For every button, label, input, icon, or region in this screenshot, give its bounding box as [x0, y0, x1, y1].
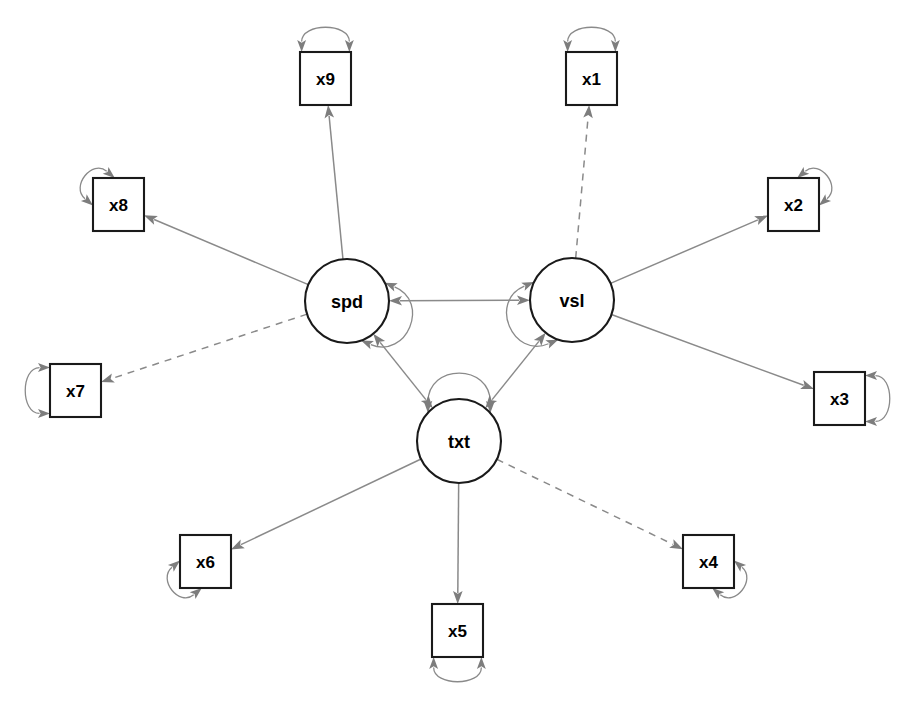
covariance-layer [373, 295, 545, 408]
covariance-edge-vsl-txt [492, 341, 539, 399]
loading-edge-txt-x4 [497, 459, 673, 544]
residual-loop-x7 [25, 368, 39, 414]
manifest-label-x7: x7 [66, 382, 85, 401]
latent-node-txt[interactable]: txt [417, 399, 501, 483]
manifest-node-x6[interactable]: x6 [180, 535, 231, 588]
arrowhead-vsl-x1 [583, 105, 593, 118]
residual-loop-x5-head-a [477, 657, 486, 669]
residual-loop-x1-head-a [563, 40, 572, 52]
loading-edge-vsl-x3 [611, 315, 803, 386]
residual-loop-x3-head-b [865, 417, 877, 426]
residual-loop-x7-head-b [38, 363, 50, 372]
manifest-node-x9[interactable]: x9 [300, 52, 351, 105]
residual-loop-x5-head-b [429, 657, 438, 669]
sem-path-diagram: x1x2x3x4x5x6x7x8x9spdvsltxt [0, 0, 913, 705]
arrowhead-txt-x4 [669, 539, 683, 549]
latent-label-vsl: vsl [559, 291, 584, 311]
residual-loop-x3-head-a [865, 371, 877, 380]
residual-loop-x1 [568, 27, 616, 41]
residual-loop-x4-head-b [712, 588, 724, 599]
loading-edge-spd-x7 [111, 314, 307, 379]
residual-loop-x9-head-b [345, 40, 354, 52]
covariance-edge-spd-vsl [400, 300, 519, 301]
manifest-label-x5: x5 [448, 622, 467, 641]
residual-loop-x9 [302, 27, 350, 41]
residual-loop-x8-head-b [103, 167, 115, 178]
arrowhead-spd-x7 [101, 373, 115, 382]
latent-label-txt: txt [448, 432, 470, 452]
latent-label-spd: spd [331, 292, 363, 312]
manifest-node-x4[interactable]: x4 [683, 535, 734, 588]
residual-loop-x5 [434, 668, 482, 682]
manifest-label-x2: x2 [784, 196, 803, 215]
loading-edge-txt-x5 [458, 483, 459, 593]
latent-node-vsl[interactable]: vsl [530, 258, 614, 342]
manifest-label-x9: x9 [316, 70, 335, 89]
residual-loop-x7-head-a [38, 409, 50, 418]
loading-edge-spd-x8 [154, 220, 308, 285]
manifest-node-x3[interactable]: x3 [814, 372, 865, 425]
manifest-label-x8: x8 [109, 196, 128, 215]
manifest-node-x8[interactable]: x8 [93, 178, 144, 231]
residual-loop-x6-head-a [190, 588, 202, 599]
residual-loop-x1-head-b [611, 40, 620, 52]
manifest-node-x5[interactable]: x5 [432, 604, 483, 657]
manifest-node-x1[interactable]: x1 [566, 52, 617, 105]
manifest-label-x3: x3 [830, 390, 849, 409]
edge-layer [101, 105, 814, 604]
latent-node-spd[interactable]: spd [305, 259, 389, 343]
arrowhead-cov-vsl-txt-a [534, 333, 546, 346]
manifest-label-x4: x4 [699, 553, 718, 572]
arrowhead-cov-spd-txt-a [373, 334, 385, 347]
loading-edge-vsl-x2 [611, 220, 758, 284]
manifest-label-x6: x6 [196, 553, 215, 572]
manifest-node-x7[interactable]: x7 [50, 364, 101, 417]
manifest-node-x2[interactable]: x2 [768, 178, 819, 231]
residual-loop-x3 [876, 376, 890, 422]
loading-edge-txt-x6 [241, 459, 421, 545]
residual-loop-x2-head-a [797, 167, 809, 178]
manifest-label-x1: x1 [582, 70, 601, 89]
loading-edge-vsl-x1 [576, 116, 589, 258]
diagram-canvas: x1x2x3x4x5x6x7x8x9spdvsltxt [0, 0, 913, 705]
covariance-edge-spd-txt [380, 342, 426, 399]
loading-edge-spd-x9 [329, 116, 343, 259]
residual-loop-x9-head-a [297, 40, 306, 52]
